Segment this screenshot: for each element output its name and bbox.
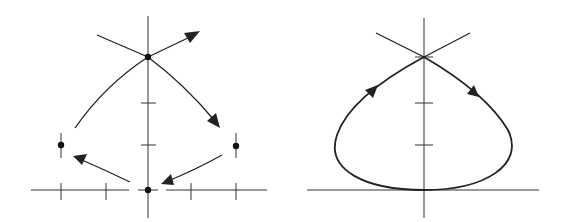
right-separatrix-upper-left xyxy=(376,33,424,57)
center-point-left xyxy=(58,142,64,148)
left-trajectory-into-origin xyxy=(168,155,222,181)
saddle-point xyxy=(145,54,151,60)
left-phase-portrait xyxy=(31,16,267,218)
homoclinic-orbit xyxy=(335,57,512,190)
origin-point xyxy=(145,187,151,193)
arrowhead-icon xyxy=(184,31,200,43)
left-trajectory-descending xyxy=(148,57,214,120)
left-trajectory-out-of-origin xyxy=(82,160,130,182)
center-point-right xyxy=(233,143,239,149)
arrowhead-icon xyxy=(207,113,220,128)
left-separatrix-upper-right xyxy=(148,37,190,57)
arrowhead-icon xyxy=(161,174,174,185)
left-trajectory-rising xyxy=(75,57,148,128)
phase-portrait-figure xyxy=(0,0,567,222)
arrowhead-icon xyxy=(73,154,87,165)
right-separatrix-upper-right xyxy=(424,33,470,57)
right-phase-portrait xyxy=(307,18,539,218)
left-separatrix-upper-left xyxy=(97,35,148,57)
